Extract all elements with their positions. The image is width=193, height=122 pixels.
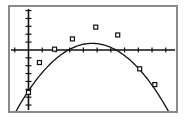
data-point-4[interactable] [70, 37, 74, 41]
data-point-6[interactable] [116, 33, 120, 37]
data-point-7[interactable] [138, 67, 142, 71]
data-point-markers[interactable] [26, 25, 156, 94]
data-point-3[interactable] [53, 47, 57, 51]
scatter-plot-svg [10, 7, 176, 111]
data-point-2[interactable] [37, 61, 41, 65]
screenshot-root [0, 0, 193, 122]
regression-curve [13, 43, 170, 111]
calculator-screen-frame [8, 5, 178, 113]
data-point-1[interactable] [26, 90, 30, 94]
data-point-8[interactable] [153, 83, 157, 87]
plot-area[interactable] [10, 7, 176, 111]
data-point-5[interactable] [94, 25, 98, 29]
